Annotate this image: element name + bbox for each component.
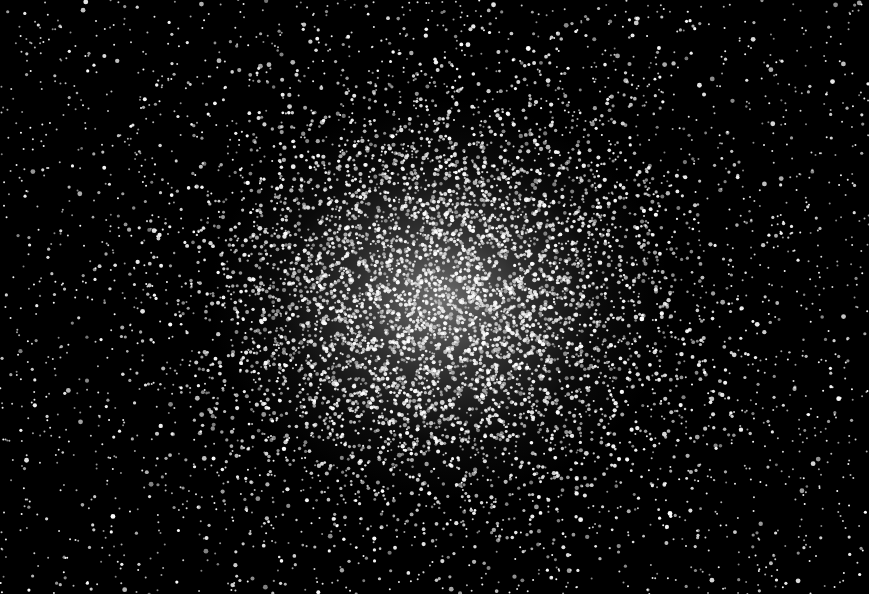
star-cluster-image xyxy=(0,0,869,594)
star-field xyxy=(0,0,869,594)
